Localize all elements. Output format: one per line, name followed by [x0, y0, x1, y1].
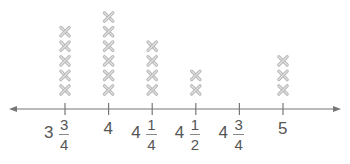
fraction-numerator: 1: [146, 117, 156, 135]
tick-label-whole: 4: [218, 124, 227, 141]
x-mark-icon: [279, 57, 287, 65]
x-mark-icon: [104, 71, 112, 79]
x-mark-icon: [61, 57, 69, 65]
tick-label-fraction: 34: [233, 117, 243, 152]
fraction-denominator: 2: [191, 135, 199, 152]
right-arrow-icon: [333, 106, 341, 112]
x-marks: [61, 13, 287, 94]
fraction-denominator: 4: [234, 135, 242, 152]
x-mark-icon: [279, 86, 287, 94]
x-mark-icon: [61, 86, 69, 94]
tick-label-whole: 4: [175, 124, 184, 141]
x-mark-icon: [192, 86, 200, 94]
tick-label-whole: 5: [278, 120, 287, 137]
fraction-denominator: 4: [147, 135, 155, 152]
x-mark-icon: [61, 27, 69, 35]
fraction-numerator: 1: [190, 117, 200, 135]
tick-label-fraction: 14: [146, 117, 156, 152]
x-mark-icon: [104, 42, 112, 50]
number-line-axis: [9, 103, 341, 115]
x-mark-icon: [148, 71, 156, 79]
tick-label-fraction: 12: [190, 117, 200, 152]
fraction-numerator: 3: [59, 117, 69, 135]
fraction-numerator: 3: [233, 117, 243, 135]
x-mark-icon: [279, 71, 287, 79]
tick-label-whole: 3: [44, 124, 53, 141]
x-mark-icon: [148, 57, 156, 65]
tick-label-whole: 4: [131, 124, 140, 141]
x-mark-icon: [104, 13, 112, 21]
fraction-denominator: 4: [60, 135, 68, 152]
x-mark-icon: [61, 42, 69, 50]
x-mark-icon: [61, 71, 69, 79]
x-mark-icon: [148, 86, 156, 94]
x-mark-icon: [104, 86, 112, 94]
tick-label-whole: 4: [104, 120, 113, 137]
x-mark-icon: [192, 71, 200, 79]
x-mark-icon: [148, 42, 156, 50]
tick-label-fraction: 34: [59, 117, 69, 152]
x-mark-icon: [104, 57, 112, 65]
x-mark-icon: [104, 27, 112, 35]
left-arrow-icon: [9, 106, 17, 112]
